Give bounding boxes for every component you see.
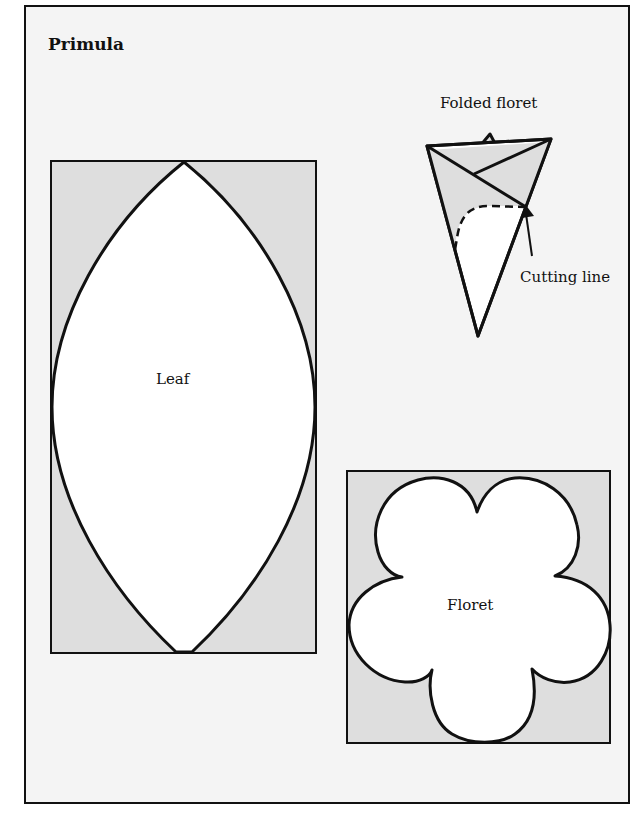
leaf-template [51, 161, 316, 653]
floret-label: Floret [447, 596, 493, 614]
cutting-line-label: Cutting line [520, 268, 610, 286]
diagram-title: Primula [48, 34, 124, 54]
folded-floret-label: Folded floret [440, 94, 537, 112]
leaf-label: Leaf [156, 370, 189, 388]
primula-template-diagram [0, 0, 634, 813]
